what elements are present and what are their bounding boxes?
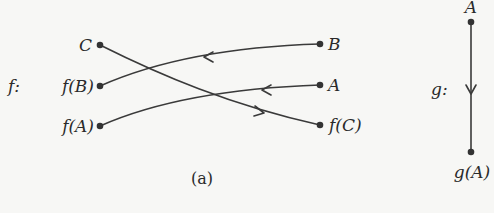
caption: (a) — [191, 169, 213, 188]
node-label-fB: f(B) — [60, 76, 94, 96]
node-dot-A — [317, 82, 324, 89]
node-label-fA: f(A) — [60, 116, 94, 136]
arrowhead-A-to-fA-icon — [262, 85, 271, 95]
node-label-g-A: A — [463, 0, 477, 17]
node-dot-g-gA — [468, 149, 475, 156]
edge-A-to-fA — [100, 85, 320, 126]
node-label-A: A — [326, 75, 340, 95]
node-label-g-gA: g(A) — [454, 162, 490, 182]
function-diagram: f: C f(B) f(A) B A f(C) (a) g: A g(A) — [0, 0, 494, 213]
node-label-C: C — [79, 35, 92, 55]
node-dot-g-A — [468, 19, 475, 26]
node-dot-fC — [317, 122, 324, 129]
node-label-fC: f(C) — [327, 115, 362, 135]
node-dot-fB — [97, 83, 104, 90]
node-dot-fA — [97, 123, 104, 130]
arrowhead-B-to-fB-icon — [204, 52, 213, 62]
node-label-B: B — [327, 34, 341, 54]
g-label: g: — [431, 79, 448, 99]
edge-B-to-fB — [100, 44, 320, 86]
node-dot-B — [317, 41, 324, 48]
node-dot-C — [97, 42, 104, 49]
f-label: f: — [6, 76, 20, 96]
